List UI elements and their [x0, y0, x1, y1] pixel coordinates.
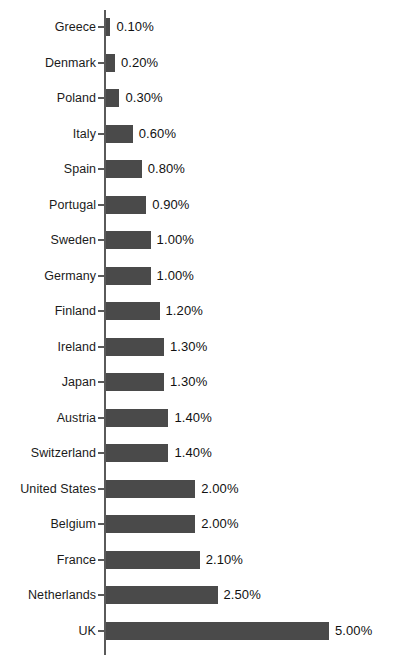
- category-label: Austria: [57, 401, 96, 435]
- axis-tick-mark: [98, 133, 105, 135]
- bar-row: Finland1.20%: [0, 294, 414, 328]
- bar-value-label: 2.50%: [224, 578, 261, 612]
- bar-value-label: 1.00%: [157, 259, 194, 293]
- bar-value-label: 1.30%: [170, 330, 207, 364]
- category-label: Denmark: [45, 46, 96, 80]
- bar-row: Germany1.00%: [0, 259, 414, 293]
- category-label: Italy: [73, 117, 96, 151]
- bar-row: Belgium2.00%: [0, 507, 414, 541]
- bar-value-label: 5.00%: [335, 614, 372, 648]
- bar-value-label: 2.00%: [201, 507, 238, 541]
- axis-tick-mark: [98, 630, 105, 632]
- category-label: Sweden: [51, 223, 96, 257]
- axis-tick-mark: [98, 62, 105, 64]
- category-label: UK: [79, 614, 96, 648]
- category-label: Ireland: [57, 330, 96, 364]
- category-label: United States: [20, 472, 96, 506]
- bar: [106, 18, 110, 36]
- bar: [106, 409, 168, 427]
- bar-row: UK5.00%: [0, 614, 414, 648]
- bar-row: United States2.00%: [0, 472, 414, 506]
- bar-row: Poland0.30%: [0, 81, 414, 115]
- axis-tick-mark: [98, 275, 105, 277]
- bar-value-label: 0.60%: [139, 117, 176, 151]
- axis-tick-mark: [98, 346, 105, 348]
- bar: [106, 338, 164, 356]
- category-label: Poland: [57, 81, 96, 115]
- bar-row: France2.10%: [0, 543, 414, 577]
- bar-row: Ireland1.30%: [0, 330, 414, 364]
- bar-row: Denmark0.20%: [0, 46, 414, 80]
- bar-value-label: 1.40%: [174, 436, 211, 470]
- bar-row: Netherlands2.50%: [0, 578, 414, 612]
- category-label: Netherlands: [28, 578, 96, 612]
- bar-value-label: 0.20%: [121, 46, 158, 80]
- bar-value-label: 0.10%: [116, 10, 153, 44]
- bar-value-label: 0.90%: [152, 188, 189, 222]
- axis-tick-mark: [98, 559, 105, 561]
- axis-tick-mark: [98, 523, 105, 525]
- bar-value-label: 1.20%: [166, 294, 203, 328]
- axis-tick-mark: [98, 168, 105, 170]
- bar: [106, 515, 195, 533]
- category-label: Greece: [55, 10, 96, 44]
- bar-value-label: 2.10%: [206, 543, 243, 577]
- axis-tick-mark: [98, 26, 105, 28]
- bar-row: Austria1.40%: [0, 401, 414, 435]
- category-label: Germany: [44, 259, 96, 293]
- category-label: Belgium: [50, 507, 96, 541]
- bar: [106, 444, 168, 462]
- category-label: Portugal: [49, 188, 96, 222]
- bar: [106, 373, 164, 391]
- category-label: Japan: [62, 365, 96, 399]
- bar: [106, 302, 160, 320]
- bar: [106, 54, 115, 72]
- bar: [106, 196, 146, 214]
- bar-value-label: 0.30%: [125, 81, 162, 115]
- bar: [106, 160, 142, 178]
- bar: [106, 586, 218, 604]
- axis-tick-mark: [98, 310, 105, 312]
- bar: [106, 622, 329, 640]
- axis-tick-mark: [98, 204, 105, 206]
- bar-row: Spain0.80%: [0, 152, 414, 186]
- axis-tick-mark: [98, 381, 105, 383]
- axis-tick-mark: [98, 594, 105, 596]
- bar-row: Portugal0.90%: [0, 188, 414, 222]
- axis-tick-mark: [98, 239, 105, 241]
- category-label: France: [57, 543, 96, 577]
- bar-value-label: 2.00%: [201, 472, 238, 506]
- bar: [106, 125, 133, 143]
- axis-tick-mark: [98, 97, 105, 99]
- bar: [106, 480, 195, 498]
- bar-row: Switzerland1.40%: [0, 436, 414, 470]
- bar: [106, 551, 200, 569]
- bar: [106, 267, 151, 285]
- bar-row: Italy0.60%: [0, 117, 414, 151]
- bar-value-label: 0.80%: [148, 152, 185, 186]
- bar-value-label: 1.00%: [157, 223, 194, 257]
- bar-row: Japan1.30%: [0, 365, 414, 399]
- bar-row: Sweden1.00%: [0, 223, 414, 257]
- bar-row: Greece0.10%: [0, 10, 414, 44]
- category-label: Spain: [64, 152, 96, 186]
- bar-value-label: 1.30%: [170, 365, 207, 399]
- axis-tick-mark: [98, 452, 105, 454]
- bar-value-label: 1.40%: [174, 401, 211, 435]
- category-label: Switzerland: [31, 436, 96, 470]
- bar: [106, 89, 119, 107]
- category-label: Finland: [55, 294, 96, 328]
- bar: [106, 231, 151, 249]
- axis-tick-mark: [98, 488, 105, 490]
- bar-chart: Greece0.10%Denmark0.20%Poland0.30%Italy0…: [0, 0, 414, 667]
- axis-tick-mark: [98, 417, 105, 419]
